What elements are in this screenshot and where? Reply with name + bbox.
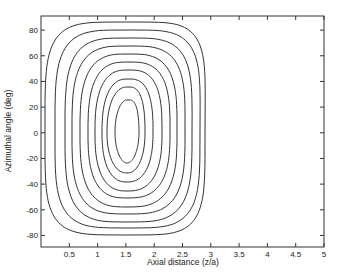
- y-tick-label: 40: [29, 77, 38, 86]
- x-tick-label: 5: [322, 250, 327, 259]
- axes-frame: [41, 16, 324, 247]
- y-tick-label: 20: [29, 103, 38, 112]
- x-tick-label: 4.5: [290, 250, 302, 259]
- plot-area: 0.511.522.533.544.55 806040200-20-40-60-…: [26, 16, 326, 259]
- contour-chart: 0.511.522.533.544.55 806040200-20-40-60-…: [0, 0, 341, 278]
- x-tick-label: 1.5: [120, 250, 132, 259]
- y-tick-label: -40: [26, 180, 38, 189]
- y-tick-label: 0: [34, 129, 39, 138]
- y-tick-label: -60: [26, 206, 38, 215]
- y-tick-label: -20: [26, 154, 38, 163]
- x-axis-label: Axial distance (z/a): [147, 257, 219, 267]
- x-tick-label: 1: [95, 250, 100, 259]
- y-tick-label: 60: [29, 52, 38, 61]
- y-axis-label: Azimuthal angle (deg): [3, 89, 13, 172]
- y-tick-label: 80: [29, 26, 38, 35]
- x-tick-label: 3.5: [234, 250, 246, 259]
- x-tick-label: 4: [265, 250, 270, 259]
- x-tick-label: 0.5: [64, 250, 76, 259]
- y-tick-label: -80: [26, 231, 38, 240]
